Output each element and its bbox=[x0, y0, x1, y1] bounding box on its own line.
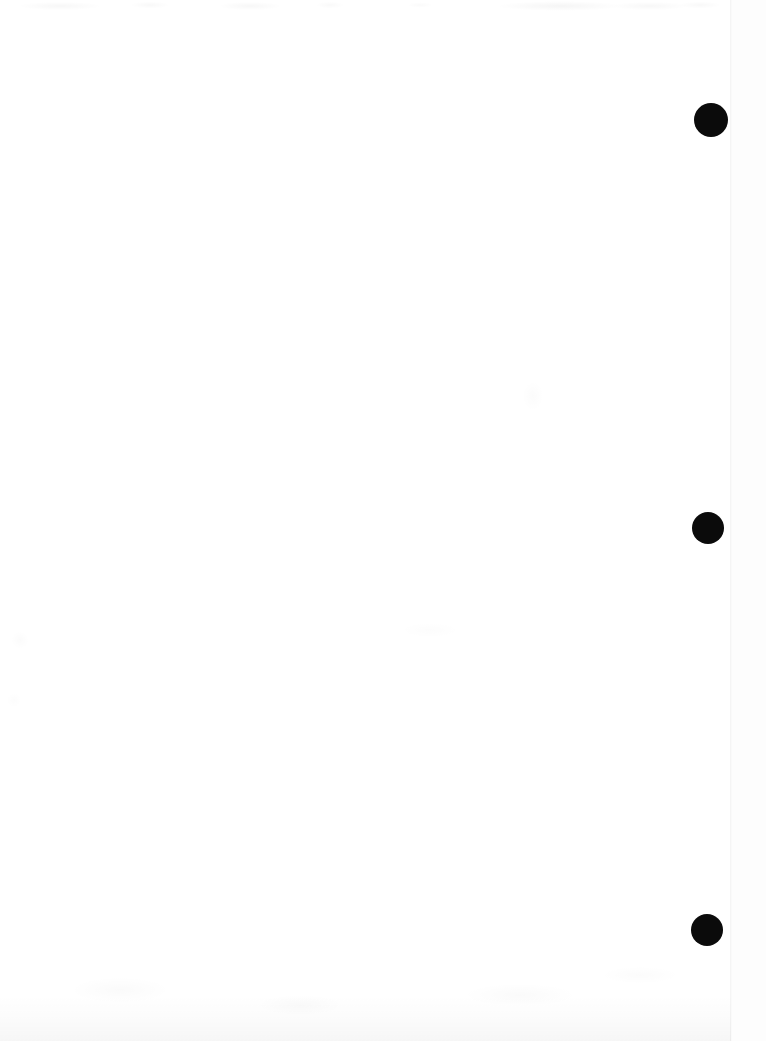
sheet-edge bbox=[730, 0, 732, 1041]
punch-mark-middle bbox=[692, 512, 724, 544]
scanned-page bbox=[0, 0, 766, 1041]
page-body-text bbox=[60, 60, 660, 960]
scanner-backing bbox=[731, 0, 766, 1041]
punch-mark-top bbox=[694, 103, 728, 137]
punch-mark-bottom bbox=[691, 914, 723, 946]
